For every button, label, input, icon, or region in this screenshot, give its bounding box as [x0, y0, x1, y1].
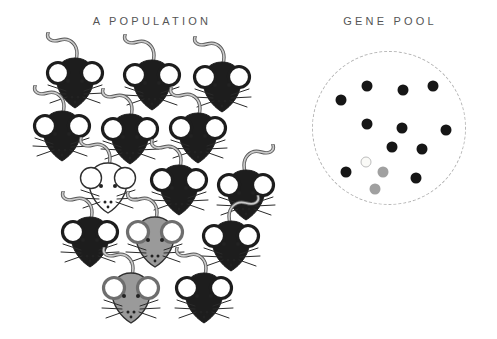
allele-dot-black	[417, 144, 428, 155]
population-gene-pool-diagram: A POPULATION GENE POOL	[0, 0, 497, 339]
allele-dot-black	[398, 85, 409, 96]
allele-dot-gray	[378, 167, 389, 178]
allele-dot-black	[362, 119, 373, 130]
gene-pool-title: GENE POOL	[343, 15, 437, 27]
allele-dot-black	[362, 81, 373, 92]
allele-dot-black	[397, 123, 408, 134]
allele-dot-black	[336, 95, 347, 106]
allele-dot-black	[428, 81, 439, 92]
allele-dot-black	[387, 142, 398, 153]
population-title: A POPULATION	[93, 15, 211, 27]
allele-dot-black	[441, 125, 452, 136]
allele-dot-black	[411, 173, 422, 184]
allele-dot-white	[361, 157, 372, 168]
mouse-gray	[99, 247, 163, 331]
allele-dot-gray	[370, 184, 381, 195]
mouse-black	[172, 247, 236, 331]
allele-dot-black	[341, 167, 352, 178]
